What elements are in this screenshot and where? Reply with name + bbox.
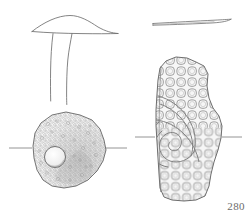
illustration-plate	[0, 0, 249, 217]
catalogue-number-label: 280	[227, 201, 245, 212]
